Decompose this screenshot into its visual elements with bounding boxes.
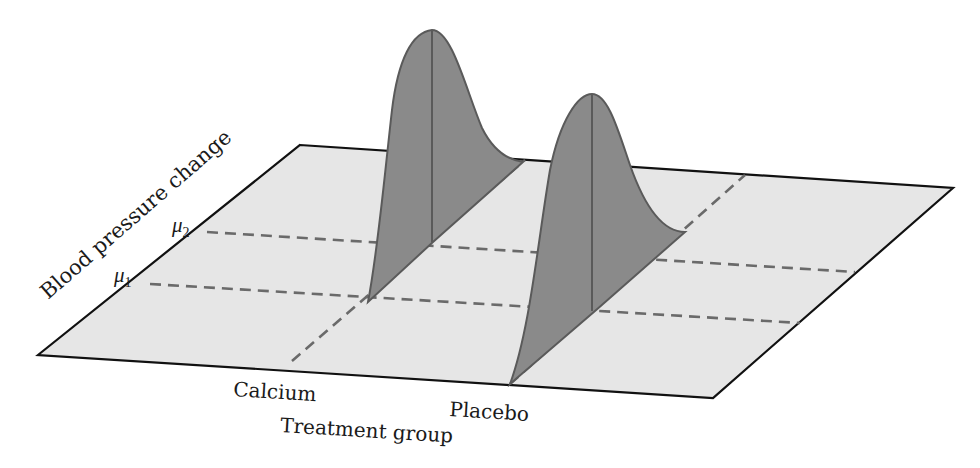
mu1-symbol: μ — [113, 263, 125, 287]
placebo-label: Placebo — [449, 397, 530, 426]
mu2-symbol: μ — [171, 213, 183, 237]
x-axis-label: Treatment group — [280, 413, 454, 448]
mu2-label: μ2 — [171, 213, 190, 240]
calcium-label: Calcium — [233, 377, 317, 406]
mu2-subscript: 2 — [183, 225, 190, 240]
mu1-subscript: 1 — [125, 275, 132, 290]
mu1-label: μ1 — [113, 263, 132, 290]
distribution-diagram: Blood pressure change μ2 μ1 Calcium Plac… — [0, 0, 980, 468]
